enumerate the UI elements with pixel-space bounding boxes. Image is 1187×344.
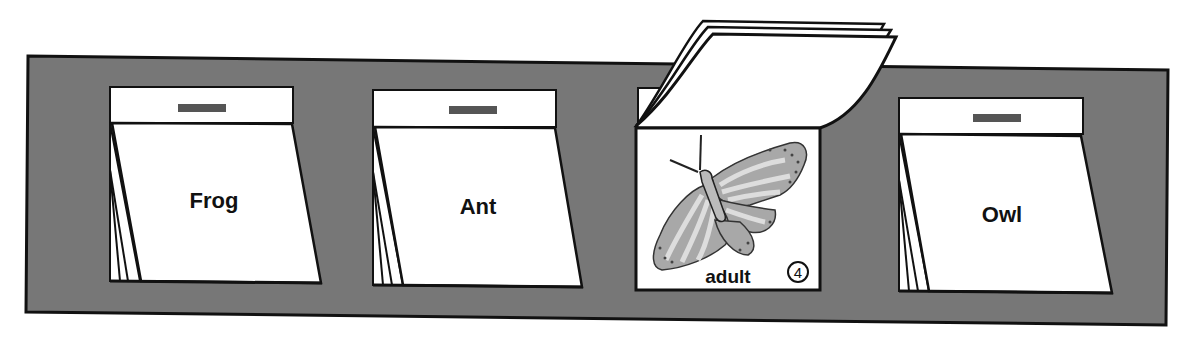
card-label: Owl	[982, 202, 1022, 227]
card-label: Frog	[190, 188, 239, 213]
flip-card-diagram: Frog Ant	[0, 0, 1187, 344]
card-owl[interactable]: Owl	[899, 98, 1113, 293]
card-label: Ant	[460, 194, 497, 219]
card-ant[interactable]: Ant	[373, 90, 583, 287]
card-tab	[973, 114, 1021, 122]
card-tab	[178, 104, 226, 112]
card-frog[interactable]: Frog	[110, 87, 322, 283]
page-number: 4	[794, 264, 802, 281]
card-tab	[449, 106, 497, 114]
card-label: adult	[705, 266, 751, 287]
page-number-badge: 4	[788, 262, 808, 282]
